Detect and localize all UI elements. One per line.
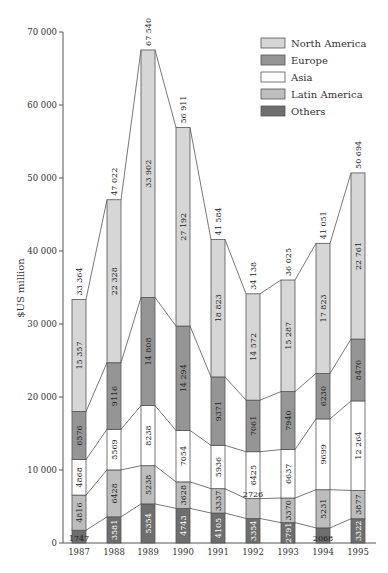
x-tick-label: 1989 xyxy=(137,547,159,557)
segment-value-label: 15 357 xyxy=(75,341,84,369)
segment-value-label: 6576 xyxy=(75,425,84,445)
x-tick-label: 1988 xyxy=(103,547,125,557)
connector-line xyxy=(190,508,211,513)
segment-value-label: 2068 xyxy=(313,534,333,543)
legend-swatch xyxy=(261,106,285,116)
segment-value-label: 15 287 xyxy=(284,322,293,350)
connector-line xyxy=(190,128,211,240)
connector-line xyxy=(121,466,141,470)
y-axis-title: $US million xyxy=(15,258,26,318)
y-tick-label: 40 000 xyxy=(27,246,57,256)
segment-value-label: 4868 xyxy=(75,467,84,487)
segment-value-label: 3354 xyxy=(249,521,258,541)
connector-line xyxy=(260,280,281,294)
connector-line xyxy=(330,519,351,528)
total-label: 36 025 xyxy=(284,248,293,276)
connector-line xyxy=(155,50,176,128)
segment-value-label: 2726 xyxy=(243,490,263,499)
segment-value-label: 5231 xyxy=(319,499,328,519)
connector-line xyxy=(86,470,107,495)
segment-value-label: 1747 xyxy=(69,534,89,543)
segment-value-label: 33 902 xyxy=(144,160,153,188)
connector-line xyxy=(295,419,316,450)
legend: North AmericaEuropeAsiaLatin AmericaOthe… xyxy=(261,38,366,117)
segment-value-label: 27 192 xyxy=(179,213,188,241)
x-tick-label: 1995 xyxy=(347,547,369,557)
connector-line xyxy=(86,429,107,459)
y-tick-label: 30 000 xyxy=(27,319,57,329)
legend-label: Asia xyxy=(290,72,313,83)
connector-line xyxy=(330,339,351,373)
x-tick-label: 1987 xyxy=(68,547,90,557)
connector-line xyxy=(295,243,316,280)
segment-value-label: 2791 xyxy=(284,523,293,543)
segment-value-label: 22 761 xyxy=(354,242,363,270)
segment-value-label: 3322 xyxy=(354,521,363,541)
segment-value-label: 3337 xyxy=(214,491,223,511)
legend-label: Others xyxy=(291,106,326,117)
segment-value-label: 22 328 xyxy=(110,267,119,295)
connector-line xyxy=(330,401,351,419)
connector-line xyxy=(155,466,176,482)
connector-line xyxy=(295,490,316,498)
total-label: 67 540 xyxy=(144,18,153,46)
y-tick-label: 50 000 xyxy=(27,173,57,183)
stacked-bar-chart: 010 00020 00030 00040 00050 00060 00070 … xyxy=(0,0,388,573)
bar-segment-latin-america xyxy=(246,499,260,519)
connector-line xyxy=(86,200,107,300)
segment-value-label: 3877 xyxy=(354,494,363,514)
x-tick-label: 1992 xyxy=(242,547,264,557)
y-tick-label: 60 000 xyxy=(27,100,57,110)
connector-line xyxy=(225,377,246,400)
y-tick-label: 70 000 xyxy=(27,27,57,37)
connector-line xyxy=(86,517,107,530)
connector-line xyxy=(225,240,246,294)
y-tick-label: 20 000 xyxy=(27,392,57,402)
segment-value-label: 9699 xyxy=(319,444,328,464)
legend-label: Europe xyxy=(291,55,328,66)
connector-line xyxy=(121,406,141,430)
connector-line xyxy=(190,482,211,489)
connector-line xyxy=(295,373,316,391)
connector-line xyxy=(190,430,211,445)
segment-value-label: 9116 xyxy=(110,386,119,406)
segment-value-label: 6637 xyxy=(284,464,293,484)
segment-value-label: 6230 xyxy=(319,386,328,406)
segment-value-label: 7061 xyxy=(249,416,258,436)
total-label: 33 364 xyxy=(75,267,84,295)
segment-value-label: 14 572 xyxy=(249,333,258,361)
segment-value-label: 4105 xyxy=(214,518,223,538)
segment-value-label: 18 823 xyxy=(214,294,223,322)
segment-value-label: 3628 xyxy=(179,485,188,505)
y-tick-label: 0 xyxy=(52,538,57,548)
connector-line xyxy=(225,445,246,451)
segment-value-label: 7940 xyxy=(284,410,293,430)
legend-swatch xyxy=(261,38,285,48)
x-tick-label: 1993 xyxy=(277,547,299,557)
total-label: 41 051 xyxy=(319,211,328,239)
segment-value-label: 6428 xyxy=(110,483,119,503)
total-label: 50 694 xyxy=(354,141,363,169)
segment-value-label: 6425 xyxy=(249,465,258,485)
total-label: 47 022 xyxy=(110,168,119,196)
segment-value-label: 3370 xyxy=(284,500,293,520)
total-label: 34 138 xyxy=(249,262,258,290)
total-label: 41 584 xyxy=(214,207,223,235)
legend-swatch xyxy=(261,89,285,99)
connector-line xyxy=(260,519,281,523)
x-tick-label: 1991 xyxy=(207,547,229,557)
segment-value-label: 5238 xyxy=(144,475,153,495)
segment-value-label: 7054 xyxy=(179,446,188,466)
segment-value-label: 8238 xyxy=(144,425,153,445)
connector-line xyxy=(330,490,351,491)
connector-line xyxy=(121,504,141,517)
connector-line xyxy=(260,392,281,401)
segment-value-label: 4816 xyxy=(75,502,84,522)
segment-value-label: 14 808 xyxy=(144,337,153,365)
connector-line xyxy=(155,297,176,326)
segment-value-label: 14 294 xyxy=(179,364,188,392)
legend-label: Latin America xyxy=(291,89,363,100)
connector-line xyxy=(155,406,176,431)
connector-line xyxy=(295,523,316,528)
connector-line xyxy=(190,326,211,377)
